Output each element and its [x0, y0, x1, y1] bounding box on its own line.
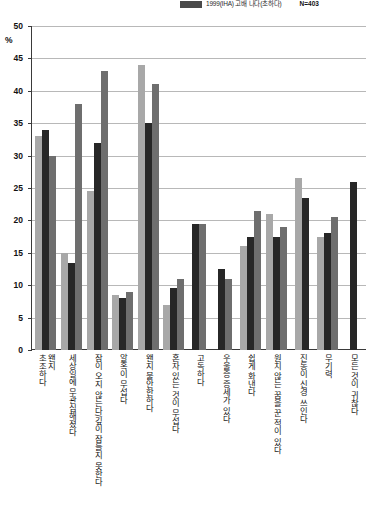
bar: [119, 298, 126, 350]
y-axis-unit-label: %: [5, 35, 13, 45]
bar-group: [110, 26, 136, 350]
bar: [247, 237, 254, 350]
x-axis-label: 알혹이 무섭다: [118, 354, 128, 506]
bar: [324, 233, 331, 350]
bar: [163, 305, 170, 350]
bar: [280, 227, 287, 350]
bar: [145, 123, 152, 350]
bar-group: [289, 26, 315, 350]
bar: [138, 65, 145, 350]
x-axis-label: 잠이 오지 않는다/깊이 잠들지 못한다: [92, 354, 102, 506]
bar: [218, 269, 225, 350]
x-axis-label: 왠지 불안한하다: [143, 354, 153, 506]
y-axis-tick-label: 40: [0, 87, 23, 96]
bar-group: [59, 26, 85, 350]
bar: [317, 237, 324, 350]
bar-group: [238, 26, 264, 350]
bar-group: [263, 26, 289, 350]
bar-group: [161, 26, 187, 350]
x-axis-label: 왠지 초조하다: [36, 354, 55, 506]
y-axis-tick-label: 30: [0, 152, 23, 161]
bar: [254, 211, 261, 350]
y-axis-tick-label: 20: [0, 216, 23, 225]
y-axis-tick-label: 10: [0, 281, 23, 290]
bar: [350, 182, 357, 350]
chart-legend: 1999(IHA) 고배 나다(초하다) N=403: [180, 0, 319, 10]
bar: [42, 130, 49, 350]
bar: [273, 237, 280, 350]
x-axis-label: 무기력: [323, 354, 333, 506]
bar: [295, 178, 302, 350]
x-axis-label: 모든 것이 귀찮다: [348, 354, 358, 506]
bar-group: [84, 26, 110, 350]
x-axis-label: 세상일에 무관심해졌다: [67, 354, 77, 506]
bar: [177, 279, 184, 350]
y-axis-tick-label: 5: [0, 314, 23, 323]
bar: [35, 136, 42, 350]
x-axis-label-cell: 왠지 불안한하다: [135, 354, 161, 509]
bar: [240, 246, 247, 350]
x-axis-label-cell: 우울증 증세가 있다: [212, 354, 238, 509]
bar-group: [187, 26, 213, 350]
bar-group: [135, 26, 161, 350]
bar: [126, 292, 133, 350]
bar-group: [340, 26, 366, 350]
bar: [101, 71, 108, 350]
y-axis-tick-label: 0: [0, 346, 23, 355]
y-axis-tick-label: 15: [0, 249, 23, 258]
x-axis-label-cell: 왠지 초조하다: [33, 354, 59, 509]
legend-label: 1999(IHA) 고배 나다(초하다): [206, 0, 282, 8]
x-axis-label-cell: 모든 것이 귀찮다: [340, 354, 366, 509]
y-axis-tick-label: 50: [0, 22, 23, 31]
x-axis-label-cell: 진동이 신경 쓰인다: [289, 354, 315, 509]
x-axis-label: 쉽게 화낸다: [246, 354, 256, 506]
legend-sample-size: N=403: [300, 0, 319, 8]
y-axis-tick: [28, 350, 32, 351]
bar: [152, 84, 159, 350]
x-axis-label-cell: 세상일에 무관심해졌다: [59, 354, 85, 509]
bar: [266, 214, 273, 350]
y-axis-tick-label: 25: [0, 184, 23, 193]
x-axis-labels: 왠지 초조하다세상일에 무관심해졌다잠이 오지 않는다/깊이 잠들지 못한다알혹…: [31, 354, 366, 509]
bar: [331, 217, 338, 350]
y-axis-tick-label: 45: [0, 54, 23, 63]
bar: [225, 279, 232, 350]
bar-group: [33, 26, 59, 350]
legend-swatch-icon: [180, 1, 202, 8]
bar: [75, 104, 82, 350]
bar: [68, 263, 75, 350]
bar: [94, 143, 101, 350]
x-axis-label: 혼자 있는 것이 무섭다: [169, 354, 179, 506]
bar-groups: [31, 26, 366, 350]
x-axis-label-cell: 잠이 오지 않는다/깊이 잠들지 못한다: [84, 354, 110, 509]
x-axis-label: 진동이 신경 쓰인다: [297, 354, 307, 506]
chart-page: 1999(IHA) 고배 나다(초하다) N=403 % 50454035302…: [0, 0, 371, 511]
bar: [199, 224, 206, 350]
bar-group: [212, 26, 238, 350]
bar: [61, 253, 68, 350]
x-axis-label-cell: 고독하다: [187, 354, 213, 509]
bar: [87, 191, 94, 350]
x-axis-label-cell: 알혹이 무섭다: [110, 354, 136, 509]
x-axis-label-cell: 혼자 있는 것이 무섭다: [161, 354, 187, 509]
bar: [170, 288, 177, 350]
bar: [49, 156, 56, 350]
bar-group: [315, 26, 341, 350]
x-axis-label-cell: 무기력: [315, 354, 341, 509]
x-axis-label: 고독하다: [195, 354, 205, 506]
x-axis-label: 원치 않는 꿈을 꾼 적이 있다: [271, 354, 281, 506]
y-axis-tick-label: 35: [0, 119, 23, 128]
bar: [192, 224, 199, 350]
bar: [112, 295, 119, 350]
x-axis-label: 우울증 증세가 있다: [220, 354, 230, 506]
x-axis-label-cell: 쉽게 화낸다: [238, 354, 264, 509]
x-axis-label-cell: 원치 않는 꿈을 꾼 적이 있다: [263, 354, 289, 509]
bar: [302, 198, 309, 350]
